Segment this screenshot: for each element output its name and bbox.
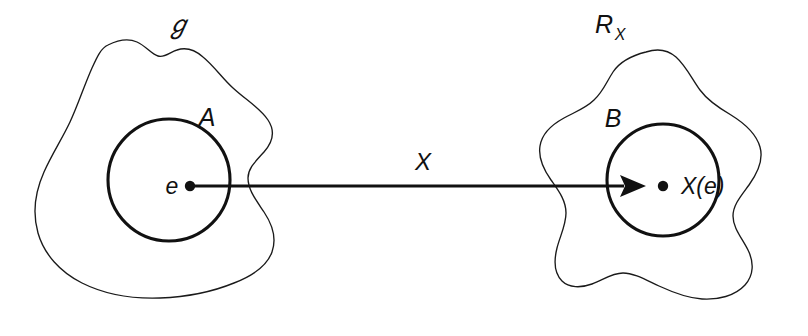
subset-a-label: A [197, 103, 216, 131]
range-space-label-subscript: X [614, 26, 627, 43]
sample-space-outline [35, 40, 274, 298]
element-e-label: e [166, 173, 179, 199]
diagram-root: ℊ A e R X B X(e) X [0, 0, 808, 336]
element-xe-label: X(e) [680, 173, 724, 199]
range-space-outline [540, 50, 762, 299]
range-space-label-base: R [595, 10, 613, 38]
diagram-canvas: ℊ A e R X B X(e) X [0, 0, 808, 336]
element-dot-xe [658, 181, 668, 191]
mapping-label: X [414, 148, 432, 175]
sample-space-label: ℊ [166, 10, 191, 40]
subset-b-label: B [605, 104, 622, 132]
range-space-label: R X [595, 10, 627, 43]
